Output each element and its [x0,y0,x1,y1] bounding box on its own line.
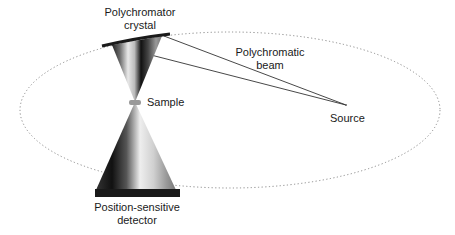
crystal-label: Polychromator crystal [100,6,180,32]
diffracted-cone-lower [96,102,176,190]
beam-label-line2: beam [230,59,310,72]
beam-label-line1: Polychromatic [230,46,310,59]
diagram-canvas [0,0,455,235]
sample-marker [129,100,141,105]
position-sensitive-detector [95,189,180,197]
diffracted-cone-upper [112,36,162,102]
detector-label-line2: detector [87,214,187,227]
detector-label-line1: Position-sensitive [87,201,187,214]
crystal-label-line2: crystal [100,19,180,32]
sample-label: Sample [147,96,184,109]
source-point [345,104,347,106]
crystal-label-line1: Polychromator [100,6,180,19]
detector-label: Position-sensitive detector [87,201,187,227]
source-label: Source [330,112,365,125]
beam-label: Polychromatic beam [230,46,310,72]
